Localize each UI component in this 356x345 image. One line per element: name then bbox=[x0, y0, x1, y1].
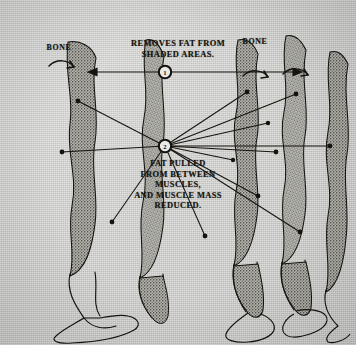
bone-label-left: BONE bbox=[36, 42, 82, 53]
span-arrow-head-right bbox=[293, 68, 302, 75]
span-arrow-head-left bbox=[88, 68, 97, 75]
callout-fat-pulled: FAT PULLED FROM BETWEEN MUSCLES, AND MUS… bbox=[106, 158, 250, 211]
diagram-canvas: BONE BONE REMOVES FAT FROM SHADED AREAS.… bbox=[0, 0, 356, 345]
marker-circles bbox=[159, 66, 171, 152]
marker-1-number: 1 bbox=[160, 69, 170, 76]
callout-removes-fat: REMOVES FAT FROM SHADED AREAS. bbox=[114, 38, 243, 59]
marker-2-number: 2 bbox=[160, 143, 170, 150]
